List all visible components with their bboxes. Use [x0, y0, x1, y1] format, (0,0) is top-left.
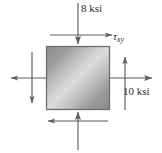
label-normal-stress-right: 10 ksi: [123, 86, 150, 97]
tau-subscript: xy: [117, 35, 124, 44]
label-shear-stress-tau-xy: τxy: [113, 31, 124, 44]
label-normal-stress-top: 8 ksi: [81, 3, 102, 14]
stress-element-square: [47, 47, 110, 110]
stress-element-figure: 8 ksi 10 ksi τxy: [0, 0, 162, 153]
figure-canvas: [0, 0, 162, 153]
